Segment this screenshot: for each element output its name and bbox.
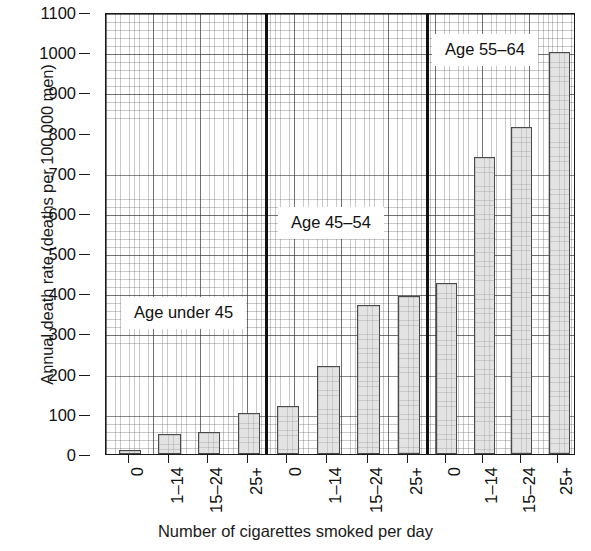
- y-axis-tick-mark: [79, 375, 90, 376]
- y-axis-tick-group: 110010009008007006005004003002001000: [0, 0, 90, 470]
- x-axis-tick: 1–14: [473, 455, 493, 513]
- y-axis-tick-mark: [79, 13, 90, 14]
- x-axis-tick-mark: [482, 455, 483, 463]
- x-axis-tick: 15–24: [511, 455, 531, 513]
- bar: [549, 52, 570, 454]
- x-axis-tick-group: 01–1415–2425+01–1415–2425+01–1415–2425+: [105, 455, 575, 517]
- x-axis-tick-mark: [286, 455, 287, 463]
- x-axis-tick-label: 0: [287, 467, 304, 476]
- x-axis-tick-mark: [407, 455, 408, 463]
- y-axis-tick-label: 600: [48, 206, 76, 223]
- x-axis-tick: 1–14: [159, 455, 179, 513]
- x-axis-tick: 25+: [548, 455, 568, 513]
- x-axis-tick-label: 25+: [558, 467, 575, 495]
- x-axis-tick-label: 1–14: [169, 467, 186, 504]
- bar: [158, 434, 180, 454]
- y-axis-tick-label: 400: [48, 286, 76, 303]
- bar: [398, 296, 421, 454]
- bar: [436, 283, 457, 454]
- y-axis-tick-label: 1000: [39, 45, 76, 62]
- x-axis-tick-mark: [520, 455, 521, 463]
- y-axis-tick-label: 1100: [41, 5, 76, 22]
- x-axis-tick: 0: [436, 455, 456, 513]
- group-annotation-age-under-45: Age under 45: [121, 297, 246, 329]
- y-axis-tick-mark: [79, 254, 90, 255]
- x-axis-tick-label: 25+: [408, 467, 425, 495]
- x-axis-tick: 15–24: [198, 455, 218, 513]
- bar: [511, 127, 532, 454]
- x-axis-tick-label: 15–24: [208, 467, 225, 513]
- x-axis-tick: 1–14: [317, 455, 337, 513]
- x-axis-title: Number of cigarettes smoked per day: [0, 522, 591, 541]
- group-separator-2: [426, 14, 429, 454]
- bar: [198, 432, 220, 455]
- x-axis-tick-mark: [557, 455, 558, 463]
- x-axis-tick: 15–24: [358, 455, 378, 513]
- bar: [238, 413, 260, 454]
- group-separator-1: [265, 14, 268, 454]
- group-annotation-age-45-54: Age 45–54: [278, 207, 384, 239]
- bar: [317, 366, 340, 454]
- y-axis-tick-mark: [79, 415, 90, 416]
- y-axis-tick-mark: [79, 214, 90, 215]
- bar: [277, 406, 300, 454]
- x-axis-tick-mark: [367, 455, 368, 463]
- x-axis-tick: 25+: [238, 455, 258, 513]
- y-axis-tick-label: 800: [48, 125, 76, 142]
- group-annotation-age-55-64: Age 55–64: [432, 34, 538, 66]
- y-axis-tick-mark: [79, 174, 90, 175]
- x-axis-tick: 0: [119, 455, 139, 513]
- bar: [119, 450, 141, 454]
- y-axis-tick-label: 700: [48, 165, 76, 182]
- bar: [474, 157, 495, 454]
- x-axis-tick-label: 1–14: [483, 467, 500, 504]
- x-axis-tick-mark: [128, 455, 129, 463]
- x-axis-tick-mark: [326, 455, 327, 463]
- x-axis-tick: 0: [277, 455, 297, 513]
- y-axis-tick-mark: [79, 294, 90, 295]
- y-axis-tick-mark: [79, 455, 90, 456]
- y-axis-tick-mark: [79, 93, 90, 94]
- x-axis-tick-label: 15–24: [521, 467, 538, 513]
- plot-area: Age under 45 Age 45–54 Age 55–64: [105, 13, 575, 455]
- y-axis-tick-label: 200: [48, 366, 76, 383]
- x-axis-tick-label: 0: [129, 467, 146, 476]
- y-axis-tick-mark: [79, 134, 90, 135]
- x-axis-tick-label: 1–14: [327, 467, 344, 504]
- y-axis-tick-mark: [79, 334, 90, 335]
- x-axis-tick-mark: [207, 455, 208, 463]
- y-axis-tick-label: 900: [48, 85, 76, 102]
- y-axis-tick-label: 0: [67, 447, 76, 464]
- x-axis-tick-label: 15–24: [368, 467, 385, 513]
- x-axis-tick-label: 0: [446, 467, 463, 476]
- y-axis-tick-label: 500: [48, 246, 76, 263]
- x-axis-tick-mark: [445, 455, 446, 463]
- y-axis-tick-mark: [79, 53, 90, 54]
- x-axis-tick: 25+: [398, 455, 418, 513]
- bar: [357, 305, 380, 454]
- x-axis-tick-label: 25+: [248, 467, 265, 495]
- x-axis-tick-mark: [247, 455, 248, 463]
- y-axis-tick-label: 300: [48, 326, 76, 343]
- y-axis-tick-label: 100: [48, 407, 76, 424]
- bar-chart: Annual death rate (deaths per 100 000 me…: [0, 0, 591, 551]
- x-axis-tick-mark: [168, 455, 169, 463]
